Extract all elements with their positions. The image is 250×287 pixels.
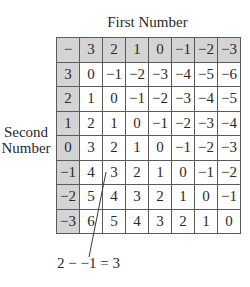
table-cell: −3 [218, 136, 241, 161]
corner-operator-cell: − [57, 38, 80, 63]
table-cell: 2 [172, 209, 195, 234]
table-cell: −1 [172, 136, 195, 161]
header-row: − 3 2 1 0 −1 −2 −3 [57, 38, 241, 63]
table-cell: 1 [103, 111, 126, 136]
table-cell: 0 [149, 136, 172, 161]
table-cell: −1 [103, 62, 126, 87]
table-cell: 3 [126, 185, 149, 210]
row-axis-title-line2: Number [0, 140, 52, 156]
table-cell: 1 [172, 185, 195, 210]
column-header: −2 [195, 38, 218, 63]
row-axis-title: Second Number [0, 124, 52, 156]
column-header: 0 [149, 38, 172, 63]
row-header: 0 [57, 136, 80, 161]
table-row: −2 5 4 3 2 1 0 −1 [57, 185, 241, 210]
table-cell: 1 [195, 209, 218, 234]
column-header: −1 [172, 38, 195, 63]
table-cell: −1 [195, 160, 218, 185]
table-cell: 2 [103, 136, 126, 161]
table-cell: 2 [80, 111, 103, 136]
column-header: 1 [126, 38, 149, 63]
row-header: −3 [57, 209, 80, 234]
row-header: 3 [57, 62, 80, 87]
column-header: 3 [80, 38, 103, 63]
annotation-equation: 2 − −1 = 3 [57, 255, 120, 271]
table-cell: −5 [195, 62, 218, 87]
table-cell: 2 [126, 160, 149, 185]
table-cell: 1 [149, 160, 172, 185]
table-cell: 1 [126, 136, 149, 161]
table-cell: −3 [149, 62, 172, 87]
table-cell: −2 [195, 136, 218, 161]
column-header: −3 [218, 38, 241, 63]
table-cell: 5 [80, 185, 103, 210]
table-cell: −3 [172, 87, 195, 112]
table-row: 2 1 0 −1 −2 −3 −4 −5 [57, 87, 241, 112]
table-cell: 0 [126, 111, 149, 136]
table-cell: 0 [218, 209, 241, 234]
table-cell: 6 [80, 209, 103, 234]
table-cell: 1 [80, 87, 103, 112]
row-axis-title-line1: Second [0, 124, 52, 140]
table-cell: 4 [126, 209, 149, 234]
table-cell: −4 [218, 111, 241, 136]
table-cell: −4 [195, 87, 218, 112]
table-row: 0 3 2 1 0 −1 −2 −3 [57, 136, 241, 161]
table-cell: 0 [80, 62, 103, 87]
table-cell: −4 [172, 62, 195, 87]
row-header: −2 [57, 185, 80, 210]
table-cell: 4 [103, 185, 126, 210]
table-cell: −1 [126, 87, 149, 112]
table-cell: 2 [149, 185, 172, 210]
table-cell: 3 [80, 136, 103, 161]
table-cell: 0 [195, 185, 218, 210]
table-cell: 3 [149, 209, 172, 234]
table-cell: −1 [149, 111, 172, 136]
table-cell: 0 [172, 160, 195, 185]
table-cell: −1 [218, 185, 241, 210]
table-cell: −2 [218, 160, 241, 185]
row-header: 2 [57, 87, 80, 112]
table-cell: −6 [218, 62, 241, 87]
table-row: −1 4 3 2 1 0 −1 −2 [57, 160, 241, 185]
column-header: 2 [103, 38, 126, 63]
row-header: −1 [57, 160, 80, 185]
table-cell: −5 [218, 87, 241, 112]
table-cell: −2 [149, 87, 172, 112]
table-cell: 5 [103, 209, 126, 234]
table-cell: 0 [103, 87, 126, 112]
column-axis-title: First Number [56, 14, 239, 30]
subtraction-table: − 3 2 1 0 −1 −2 −3 3 0 −1 −2 −3 −4 −5 −6… [56, 37, 241, 234]
table-row: 1 2 1 0 −1 −2 −3 −4 [57, 111, 241, 136]
table-cell: −3 [195, 111, 218, 136]
table-cell-highlighted: 3 [103, 160, 126, 185]
table-row: 3 0 −1 −2 −3 −4 −5 −6 [57, 62, 241, 87]
table-cell: 4 [80, 160, 103, 185]
table-cell: −2 [172, 111, 195, 136]
table-row: −3 6 5 4 3 2 1 0 [57, 209, 241, 234]
table-cell: −2 [126, 62, 149, 87]
row-header: 1 [57, 111, 80, 136]
